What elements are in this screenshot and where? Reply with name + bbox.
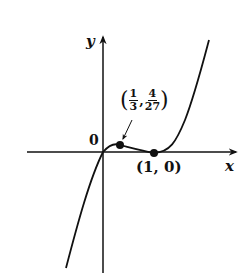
comma: ,: [139, 93, 144, 108]
local-max-point: [116, 141, 124, 149]
top-fragment: ·: [70, 0, 73, 4]
root-point-label: (1, 0): [136, 160, 182, 175]
paren-open: (: [120, 87, 129, 112]
x-fraction: 13: [129, 88, 139, 112]
cubic-curve: [66, 40, 209, 268]
paren-close: ): [160, 87, 169, 112]
x-denominator: 3: [130, 101, 138, 113]
root-point: [150, 149, 158, 157]
origin-label: 0: [89, 133, 99, 147]
x-axis-label: x: [225, 159, 234, 174]
y-numerator: 4: [148, 88, 158, 101]
y-axis-label: y: [86, 34, 95, 49]
local-max-label: (13,427): [120, 88, 169, 112]
annotation-pointer: [123, 120, 132, 139]
cubic-graph: [0, 0, 247, 278]
y-fraction: 427: [145, 88, 160, 112]
x-numerator: 1: [129, 88, 139, 101]
y-denominator: 27: [145, 101, 160, 113]
